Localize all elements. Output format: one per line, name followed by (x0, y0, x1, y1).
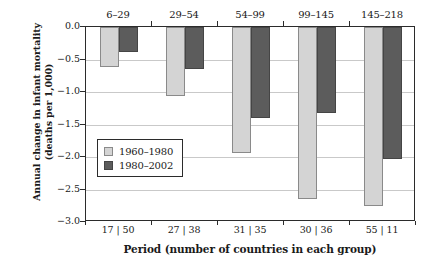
y-axis-tick-label: −2.5 (46, 183, 80, 194)
y-axis-title-line1: Annual change in infant mortality (31, 23, 42, 201)
bar (185, 27, 204, 69)
bar (298, 27, 317, 199)
bar (232, 27, 251, 153)
legend-item-1: 1980–2002 (104, 158, 173, 172)
bar (383, 27, 402, 159)
bar (317, 27, 336, 113)
legend-label-1980-2002: 1980–2002 (119, 160, 173, 171)
plot-area (85, 26, 415, 221)
group-separator-tick (349, 21, 350, 26)
legend-swatch-1960-1980 (104, 147, 113, 156)
chart-legend: 1960–1980 1980–2002 (97, 139, 183, 177)
x-axis-tick-mark (217, 221, 218, 225)
group-header-label: 29–54 (151, 9, 217, 20)
x-axis-tick-mark (151, 221, 152, 225)
x-axis-tick-label: 55 | 11 (349, 224, 415, 235)
y-axis-tick-label: −2.0 (46, 150, 80, 161)
bar (119, 27, 138, 52)
bar (364, 27, 383, 206)
y-axis-tick-label: −3.0 (46, 215, 80, 226)
bar (100, 27, 119, 67)
bar (251, 27, 270, 118)
legend-label-1960-1980: 1960–1980 (119, 146, 173, 157)
group-header-label: 6–29 (85, 9, 151, 20)
x-axis-tick-label: 31 | 35 (217, 224, 283, 235)
gridline (86, 222, 414, 223)
group-header-label: 99–145 (283, 9, 349, 20)
x-axis-tick-mark (283, 221, 284, 225)
x-axis-tick-label: 27 | 38 (151, 224, 217, 235)
y-axis-tick-label: −1.0 (46, 85, 80, 96)
group-header-label: 145–218 (349, 9, 415, 20)
legend-item-0: 1960–1980 (104, 144, 173, 158)
x-axis-tick-label: 30 | 36 (283, 224, 349, 235)
x-axis-tick-mark (85, 221, 86, 225)
bar (166, 27, 185, 96)
chart-figure: Annual change in infant mortality (death… (0, 0, 440, 266)
y-axis-tick-label: −1.5 (46, 118, 80, 129)
x-axis-tick-label: 17 | 50 (85, 224, 151, 235)
group-separator-tick (283, 21, 284, 26)
group-separator-tick (151, 21, 152, 26)
group-header-label: 54–99 (217, 9, 283, 20)
y-axis-tick-label: 0.0 (46, 20, 80, 31)
legend-swatch-1980-2002 (104, 161, 113, 170)
x-axis-title: Period (number of countries in each grou… (85, 243, 415, 255)
x-axis-tick-mark (415, 221, 416, 225)
y-axis-tick-label: −0.5 (46, 53, 80, 64)
group-separator-tick (217, 21, 218, 26)
x-axis-tick-mark (349, 221, 350, 225)
